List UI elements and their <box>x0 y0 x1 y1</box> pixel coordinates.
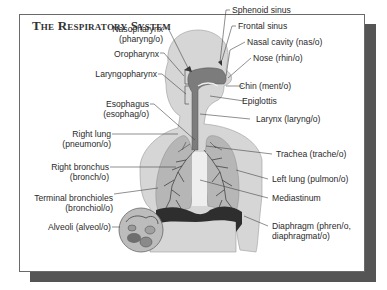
respiratory-diagram <box>0 0 387 290</box>
